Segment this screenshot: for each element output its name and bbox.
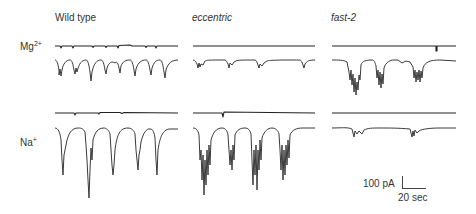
scale-bar xyxy=(402,176,426,189)
trace-wt-na xyxy=(55,128,178,198)
scale-bar-current-label: 100 pA xyxy=(363,178,395,189)
trace-wt-mg xyxy=(55,60,178,81)
trace-fast2-mg-reference xyxy=(332,46,456,51)
current-traces xyxy=(0,0,476,214)
trace-fast2-na xyxy=(332,128,456,137)
trace-ecc-na-reference xyxy=(193,112,315,117)
trace-fast2-mg xyxy=(332,60,456,95)
trace-ecc-na xyxy=(193,128,315,195)
trace-wt-na-reference xyxy=(55,113,178,116)
trace-ecc-mg xyxy=(193,60,315,68)
trace-wt-mg-reference xyxy=(55,45,178,48)
scale-bar-time-label: 20 sec xyxy=(398,192,427,203)
